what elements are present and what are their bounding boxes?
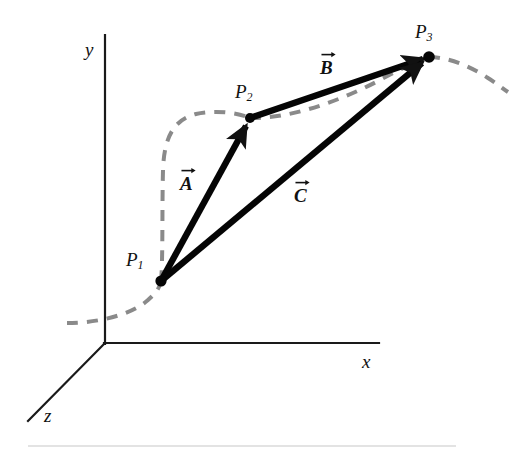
trajectory-path bbox=[67, 57, 508, 323]
trajectory-segment-upper-right bbox=[429, 57, 508, 92]
point-label-p1-base: P bbox=[126, 249, 138, 270]
vector-label-a-glyph: A bbox=[180, 173, 193, 194]
vector-label-b: B bbox=[320, 56, 333, 75]
point-marker-p3 bbox=[423, 51, 435, 63]
vector-diagram-svg bbox=[0, 0, 532, 453]
vector-a-shaft bbox=[161, 126, 246, 281]
vector-b-shaft bbox=[250, 59, 423, 118]
figure-canvas: y x z P1 P2 P3 A B C bbox=[0, 0, 532, 453]
point-label-p2-subscript: 2 bbox=[247, 90, 253, 104]
vector-label-a: A bbox=[180, 172, 193, 191]
vector-arrows bbox=[161, 59, 423, 281]
point-marker-p1 bbox=[155, 275, 166, 286]
vector-label-b-glyph: B bbox=[320, 57, 333, 78]
point-label-p3-subscript: 3 bbox=[427, 30, 433, 44]
footer-divider bbox=[28, 445, 456, 447]
point-label-p2: P2 bbox=[235, 82, 253, 103]
z-axis-line bbox=[28, 343, 105, 421]
vector-c-shaft bbox=[161, 63, 422, 281]
y-axis-label: y bbox=[85, 40, 93, 59]
point-label-p3-base: P bbox=[415, 21, 427, 42]
point-label-p1-subscript: 1 bbox=[138, 258, 144, 272]
point-label-p3: P3 bbox=[415, 22, 433, 43]
vector-label-c: C bbox=[294, 184, 307, 203]
point-label-p1: P1 bbox=[126, 250, 144, 271]
trajectory-segment-lower-left bbox=[67, 281, 161, 323]
vector-label-c-glyph: C bbox=[294, 185, 307, 206]
z-axis-label: z bbox=[44, 406, 51, 425]
point-marker-p2 bbox=[245, 113, 255, 123]
point-label-p2-base: P bbox=[235, 81, 247, 102]
x-axis-label: x bbox=[362, 352, 370, 371]
